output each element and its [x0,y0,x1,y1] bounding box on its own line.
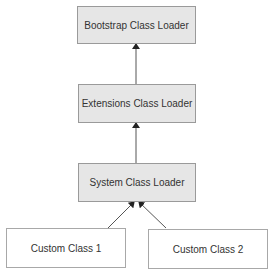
node-custom-class-1: Custom Class 1 [6,228,126,268]
node-label: Bootstrap Class Loader [84,20,189,31]
node-label: Extensions Class Loader [82,98,193,109]
edge-custom1-to-system [108,202,134,228]
node-bootstrap-class-loader: Bootstrap Class Loader [77,6,196,44]
node-label: Custom Class 1 [31,243,102,254]
node-label: System Class Loader [89,177,184,188]
edge-custom2-to-system [139,202,166,228]
node-extensions-class-loader: Extensions Class Loader [78,84,196,123]
node-label: Custom Class 2 [173,244,244,255]
node-custom-class-2: Custom Class 2 [148,229,268,269]
node-system-class-loader: System Class Loader [78,163,196,202]
